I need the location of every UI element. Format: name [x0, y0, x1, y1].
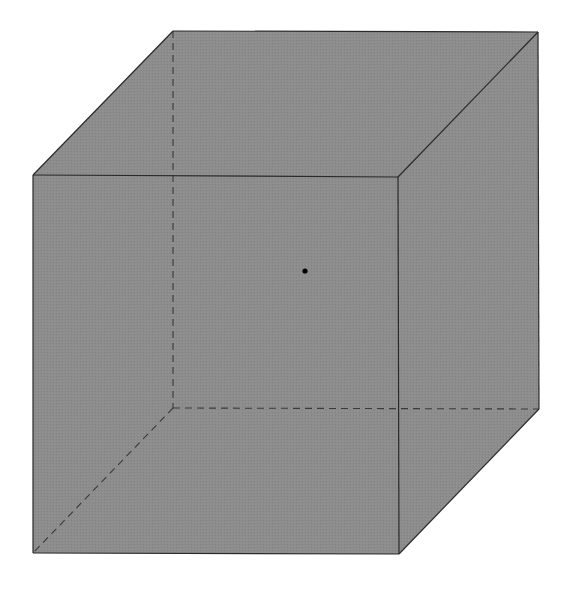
cube-diagram: [0, 0, 565, 589]
point-on-face: [302, 268, 307, 273]
cube-figure: [0, 0, 565, 589]
